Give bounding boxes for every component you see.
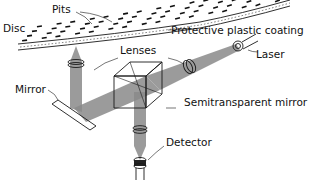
vertical-beam [70, 46, 82, 112]
pit [127, 20, 132, 23]
pit [22, 39, 27, 41]
pit [27, 35, 32, 37]
pit [185, 6, 190, 9]
pit [37, 25, 42, 27]
label-laser: Laser [256, 48, 285, 60]
pit [118, 17, 123, 20]
pit [47, 32, 52, 34]
pit [180, 12, 185, 15]
pit [198, 4, 203, 7]
pit [56, 22, 61, 24]
pit [208, 11, 213, 14]
label-semitransparent-mirror: Semitransparent mirror [184, 96, 308, 108]
pit [32, 30, 37, 32]
pit [146, 17, 151, 20]
pit [203, 0, 208, 2]
pit [222, 9, 227, 12]
label-pits: Pits [52, 3, 71, 15]
pit [160, 15, 165, 18]
pit [113, 22, 118, 25]
pit [242, 5, 247, 8]
pit [60, 30, 65, 32]
pit [89, 30, 94, 33]
pit [122, 26, 127, 29]
pit [132, 15, 137, 18]
pit [246, 0, 251, 3]
pit [90, 18, 95, 20]
pit [165, 10, 170, 13]
pit [156, 7, 161, 10]
pit [123, 12, 128, 15]
label-detector: Detector [166, 136, 212, 148]
pit [75, 32, 80, 34]
cd-pickup-diagram: Disc Pits Protective plastic coating Len… [0, 0, 312, 182]
pit [194, 10, 199, 13]
pit [213, 6, 218, 9]
horizontal-beam [74, 76, 160, 122]
pit [80, 27, 85, 29]
pit [170, 5, 175, 8]
pit [255, 3, 260, 6]
laser-device [233, 34, 258, 51]
pit [232, 0, 237, 1]
label-disc: Disc [3, 22, 25, 34]
pit [227, 4, 232, 7]
detector-device [134, 158, 146, 181]
pit [42, 37, 47, 39]
pit [189, 1, 194, 4]
pit [65, 25, 70, 27]
laser-beam [146, 44, 240, 90]
pit [108, 27, 113, 30]
pit [70, 21, 75, 23]
label-lenses: Lenses [120, 44, 156, 56]
pit [218, 0, 223, 3]
pit [275, 0, 280, 2]
pit [85, 22, 90, 24]
pit [175, 17, 180, 20]
pit [137, 10, 142, 13]
label-coating: Protective plastic coating [171, 24, 304, 36]
label-mirror: Mirror [15, 83, 47, 95]
pit [52, 27, 57, 29]
pit [142, 22, 147, 25]
pit [151, 12, 156, 15]
pit [99, 20, 104, 23]
pit [94, 25, 99, 28]
pit [55, 35, 60, 37]
pit [189, 15, 194, 18]
pit [155, 20, 160, 23]
